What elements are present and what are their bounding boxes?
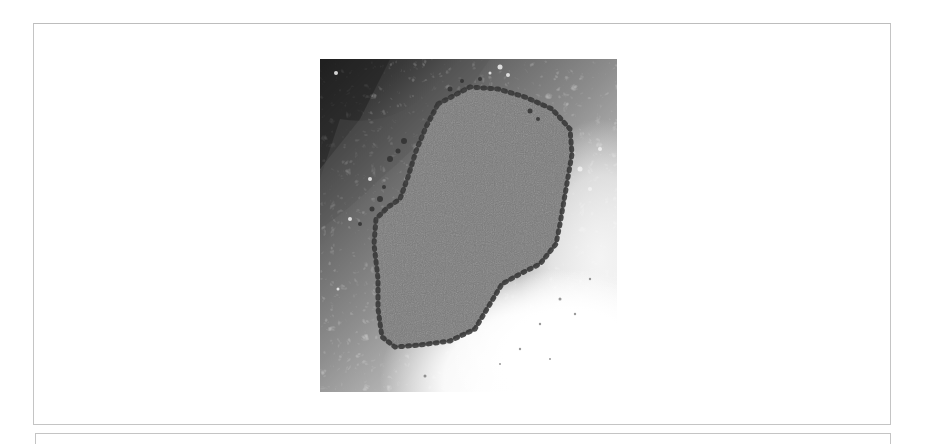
segmented-grayscale-image: [320, 59, 617, 392]
next-panel: [35, 433, 891, 444]
page: [0, 0, 932, 444]
image-overlay: [320, 59, 617, 392]
